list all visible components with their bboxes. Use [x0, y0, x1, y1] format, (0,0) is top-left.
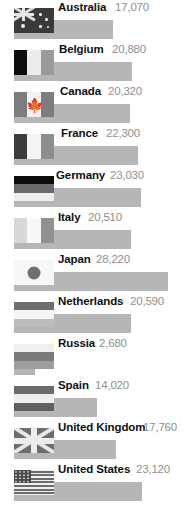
value-label: 17,070 [115, 1, 149, 13]
spain-flag [14, 386, 54, 411]
value-label: 22,300 [106, 127, 140, 139]
value-label: 20,590 [130, 295, 164, 307]
value-label: 20,880 [112, 43, 146, 55]
value-label: 17,760 [143, 421, 177, 433]
value-label: 20,320 [108, 85, 142, 97]
country-label: Spain [58, 379, 89, 391]
country-label: Canada [60, 85, 101, 97]
country-label: United States [58, 463, 130, 475]
flag-bar-chart: Australia17,070Belgium20,880🍁Canada20,32… [0, 0, 188, 509]
country-label: Australia [58, 1, 106, 13]
country-label: Germany [56, 169, 105, 181]
germany-flag [14, 176, 54, 201]
value-label: 28,220 [96, 253, 130, 265]
country-label: Italy [58, 211, 81, 223]
value-label: 2,680 [99, 337, 127, 349]
country-label: Belgium [59, 43, 104, 55]
canada-flag: 🍁 [14, 92, 54, 117]
value-label: 20,510 [88, 211, 122, 223]
japan-flag [14, 260, 54, 285]
russia-flag [14, 344, 54, 369]
country-label: Netherlands [58, 295, 123, 307]
france-flag [14, 134, 54, 159]
country-label: Japan [58, 253, 91, 265]
country-label: United Kingdom [58, 421, 145, 433]
country-label: France [61, 127, 98, 139]
uk-flag [14, 428, 54, 453]
netherlands-flag [14, 302, 54, 327]
country-label: Russia [58, 337, 95, 349]
value-label: 23,030 [110, 169, 144, 181]
belgium-flag [14, 50, 54, 75]
italy-flag [14, 218, 54, 243]
value-label: 14,020 [95, 379, 129, 391]
value-label: 23,120 [136, 463, 170, 475]
us-flag [14, 470, 54, 495]
australia-flag [14, 8, 54, 33]
